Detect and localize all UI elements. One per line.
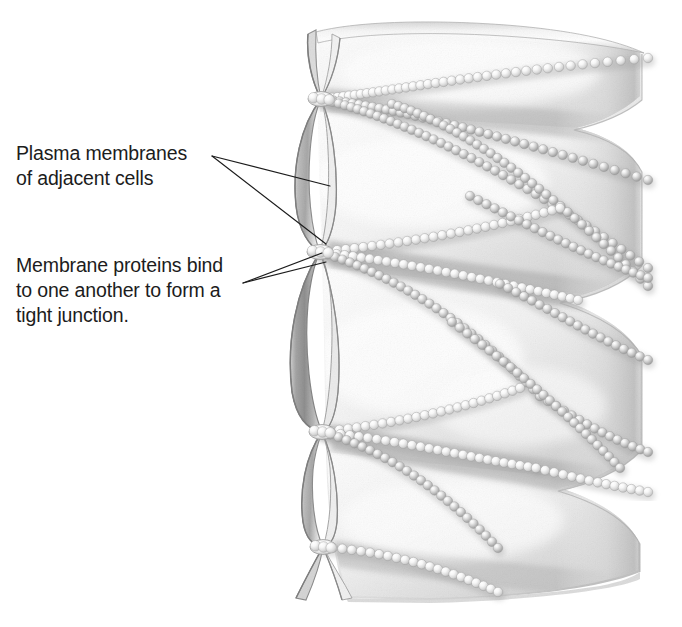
label-line: tight junction. [16, 304, 129, 326]
protein-bead [437, 407, 447, 417]
protein-bead [643, 263, 653, 273]
protein-bead [424, 444, 434, 454]
protein-bead [610, 481, 620, 491]
protein-bead [392, 553, 402, 563]
highlight-lobe-5 [340, 480, 564, 560]
protein-bead [555, 203, 565, 213]
protein-bead [390, 258, 400, 268]
protein-bead [381, 436, 391, 446]
protein-bead [395, 416, 405, 426]
protein-bead [558, 150, 568, 160]
protein-bead [372, 434, 382, 444]
protein-bead [643, 53, 653, 63]
protein-bead [538, 145, 548, 155]
protein-bead [402, 236, 412, 246]
protein-bead [578, 60, 588, 70]
label-line: Membrane proteins bind [16, 254, 223, 276]
protein-bead [447, 317, 457, 327]
protein-bead [475, 127, 485, 137]
protein-bead [411, 235, 421, 245]
protein-bead [385, 239, 395, 249]
protein-bead [455, 227, 465, 237]
protein-bead [466, 125, 476, 135]
label-line: Plasma membranes [16, 142, 187, 164]
protein-bead [573, 295, 583, 305]
protein-bead [501, 134, 511, 144]
protein-bead [450, 269, 460, 279]
protein-bead [365, 548, 375, 558]
protein-bead [616, 56, 626, 66]
protein-bead [599, 239, 609, 249]
protein-bead [438, 231, 448, 241]
protein-bead [338, 544, 348, 554]
protein-bead [493, 587, 503, 597]
protein-bead [373, 255, 383, 265]
protein-bead [578, 156, 588, 166]
protein-bead [399, 260, 409, 270]
junction-4-bead-2 [326, 543, 337, 554]
protein-bead [483, 455, 493, 465]
protein-bead [383, 551, 393, 561]
protein-bead [350, 243, 360, 253]
protein-bead [590, 58, 600, 68]
protein-bead [534, 286, 544, 296]
protein-bead [465, 191, 475, 201]
protein-bead [627, 484, 637, 494]
protein-bead [403, 414, 413, 424]
label-line: of adjacent cells [16, 167, 154, 189]
protein-bead [566, 61, 576, 71]
protein-bead [584, 476, 594, 486]
protein-bead [643, 355, 653, 365]
junction-3-bead-2 [325, 428, 336, 439]
protein-bead [515, 383, 525, 393]
protein-bead [420, 411, 430, 421]
protein-bead [498, 218, 508, 228]
protein-bead [489, 220, 499, 230]
protein-bead [543, 64, 553, 74]
protein-bead [458, 450, 468, 460]
protein-bead [529, 142, 539, 152]
protein-bead [365, 254, 375, 264]
protein-bead [511, 67, 521, 77]
protein-bead [603, 57, 613, 67]
protein-bead [424, 264, 434, 274]
protein-bead [407, 441, 417, 451]
protein-bead [506, 175, 516, 185]
protein-bead [643, 447, 653, 457]
protein-bead [558, 470, 568, 480]
protein-bead [399, 439, 409, 449]
protein-bead [491, 70, 501, 80]
protein-bead [484, 276, 494, 286]
protein-bead [632, 172, 642, 182]
protein-bead [532, 65, 542, 75]
protein-bead [606, 246, 616, 256]
protein-bead [568, 153, 578, 163]
protein-bead [610, 165, 620, 175]
protein-bead [584, 226, 594, 236]
protein-bead [617, 244, 627, 254]
protein-bead [378, 419, 388, 429]
protein-bead [522, 66, 532, 76]
protein-bead [447, 76, 457, 86]
junction-1 [308, 92, 335, 107]
protein-bead [412, 412, 422, 422]
protein-bead [643, 273, 653, 283]
protein-bead [599, 162, 609, 172]
protein-bead [433, 445, 443, 455]
protein-bead [629, 55, 639, 65]
protein-bead [428, 409, 438, 419]
protein-bead [429, 232, 439, 242]
protein-bead [467, 452, 477, 462]
tight-junction-figure: Plasma membranesof adjacent cellsMembran… [0, 0, 682, 627]
label-line: to one another to form a [16, 279, 221, 301]
protein-bead [467, 272, 477, 282]
protein-bead [475, 274, 485, 284]
junction-3 [309, 425, 336, 440]
protein-bead [441, 447, 451, 457]
protein-bead [519, 139, 529, 149]
protein-bead [433, 266, 443, 276]
protein-bead [576, 474, 586, 484]
protein-bead [482, 71, 492, 81]
protein-bead [459, 271, 469, 281]
protein-bead [361, 421, 371, 431]
